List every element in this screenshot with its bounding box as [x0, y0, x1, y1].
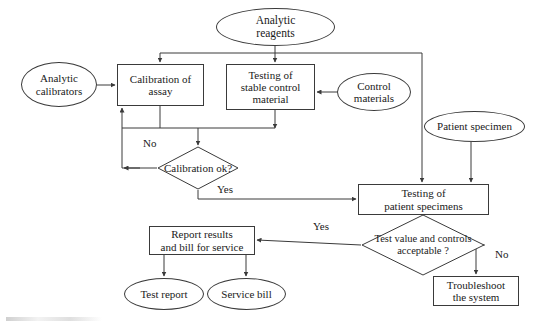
node-testing-patient-specimens[interactable]: Testing of patient specimens — [358, 184, 489, 215]
node-testing-stable-control-material-label: Testing of stable control material — [239, 69, 303, 106]
node-analytic-reagents-label: Analytic reagents — [254, 14, 298, 40]
node-calibration-ok-label: Calibration ok? — [164, 162, 232, 174]
node-test-report-label: Test report — [138, 288, 189, 300]
node-troubleshoot-system-label: Troubleshoot the system — [445, 279, 507, 304]
edge-acceptable-yes-to-report — [257, 240, 361, 245]
node-control-materials-label: Control materials — [352, 80, 396, 105]
node-patient-specimen[interactable]: Patient specimen — [424, 111, 525, 142]
node-test-value-controls-acceptable[interactable]: Test value and controls acceptable ? — [361, 214, 485, 276]
edge-label-acceptable-yes: Yes — [313, 220, 329, 232]
node-report-results-label: Report results and bill for service — [159, 228, 246, 253]
node-testing-stable-control-material[interactable]: Testing of stable control material — [226, 64, 315, 110]
node-calibration-of-assay-label: Calibration of assay — [128, 73, 193, 98]
edge-label-calibration-no: No — [143, 137, 156, 149]
node-patient-specimen-label: Patient specimen — [435, 120, 514, 132]
edge-label-calibration-yes: Yes — [217, 183, 233, 195]
node-test-value-controls-acceptable-label: Test value and controls acceptable ? — [361, 233, 485, 256]
flowchart-canvas: Analytic reagents Analytic calibrators C… — [0, 0, 541, 326]
node-testing-patient-specimens-label: Testing of patient specimens — [382, 187, 465, 212]
node-analytic-reagents[interactable]: Analytic reagents — [216, 8, 335, 46]
node-service-bill-label: Service bill — [219, 288, 273, 300]
node-control-materials[interactable]: Control materials — [337, 73, 411, 111]
node-analytic-calibrators-label: Analytic calibrators — [34, 72, 84, 97]
node-service-bill[interactable]: Service bill — [207, 278, 286, 310]
node-test-report[interactable]: Test report — [124, 278, 204, 310]
node-calibration-of-assay[interactable]: Calibration of assay — [117, 64, 204, 106]
node-report-results[interactable]: Report results and bill for service — [149, 226, 255, 255]
edge-label-acceptable-no: No — [495, 248, 508, 260]
node-analytic-calibrators[interactable]: Analytic calibrators — [21, 62, 97, 107]
page-scan-artifact — [6, 317, 102, 321]
node-troubleshoot-system[interactable]: Troubleshoot the system — [433, 276, 519, 306]
